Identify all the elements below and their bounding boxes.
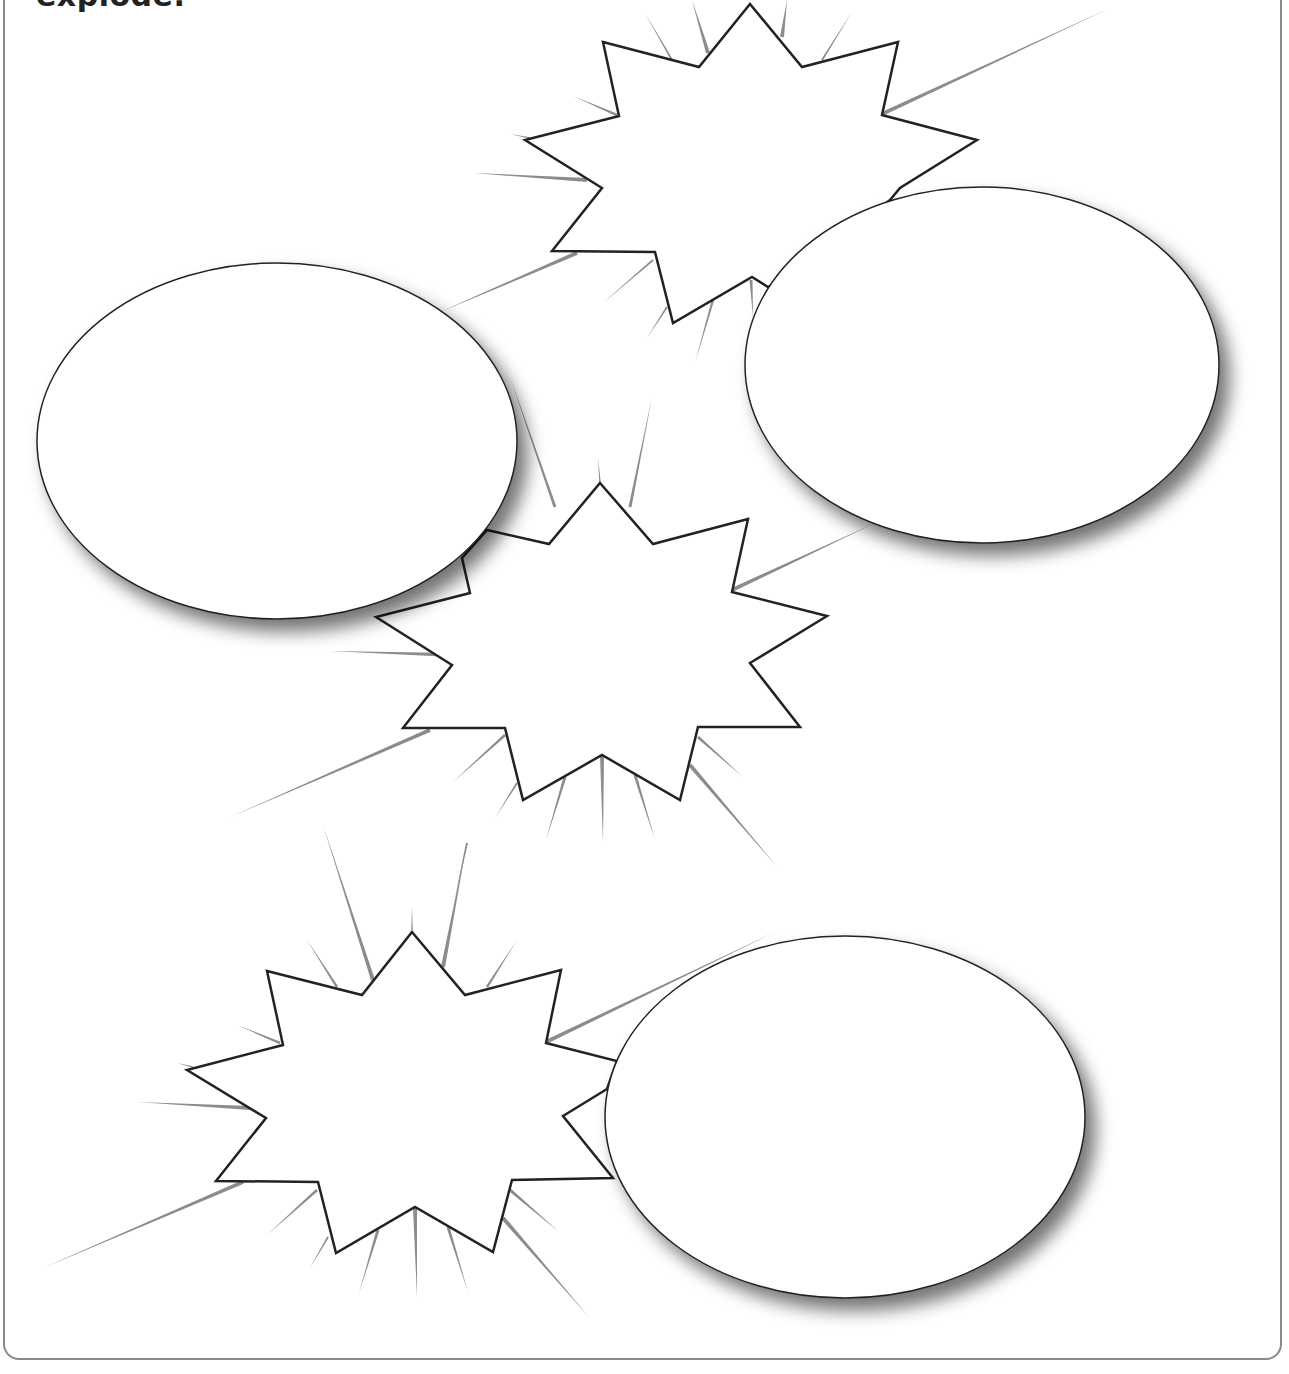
ray-streak [411, 907, 413, 930]
ray-streak [323, 825, 375, 981]
ray-streak [629, 397, 652, 507]
ray-streak [310, 1236, 329, 1268]
ray-streak [237, 1025, 280, 1044]
ray-streak [603, 259, 654, 303]
ray-streak [750, 280, 753, 317]
comic-bubbles-artwork [0, 0, 1289, 1374]
ray-streak [821, 12, 852, 61]
bottom-speech-bubble [605, 936, 1085, 1298]
ray-streak [177, 1063, 193, 1068]
ray-streak [510, 134, 530, 139]
ray-streak [692, 0, 710, 54]
left-speech-bubble [37, 263, 517, 619]
ray-streak [413, 1208, 417, 1297]
right-speech-bubble [745, 187, 1219, 543]
ray-streak [501, 1217, 589, 1317]
ray-streak [780, 0, 787, 37]
ray-streak [267, 1189, 318, 1235]
ray-streak [138, 1102, 250, 1110]
ray-streak [647, 306, 668, 338]
ray-streak [731, 524, 873, 592]
ray-streak [441, 842, 467, 967]
ray-streak [697, 736, 743, 777]
ray-streak [228, 728, 431, 818]
ray-streak [307, 940, 338, 988]
bottom-starburst [187, 932, 617, 1253]
ray-streak [440, 251, 578, 312]
ray-streak [688, 764, 778, 868]
ray-streak [881, 8, 1110, 116]
ray-streak [509, 1189, 559, 1232]
ray-streak [598, 458, 601, 482]
ray-streak [573, 96, 617, 116]
ray-streak [453, 734, 506, 782]
ray-streak [43, 1180, 244, 1268]
ray-streak [473, 173, 587, 182]
ray-streak [495, 782, 518, 818]
ray-streak [486, 940, 517, 988]
ray-streak [600, 755, 604, 843]
